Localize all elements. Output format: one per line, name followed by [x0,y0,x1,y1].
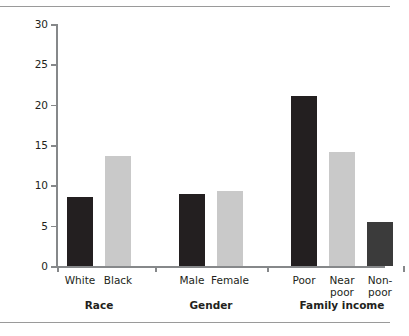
y-tick-mark [51,145,57,147]
x-tick-mark [155,266,157,272]
group-label: Gender [141,299,281,311]
y-tick-label: 30 [35,18,48,30]
bar [179,194,205,266]
bar [105,156,131,266]
y-tick-mark [51,24,57,26]
category-label: Non- poor [350,274,409,298]
y-tick-mark [51,105,57,107]
bar [67,197,93,266]
group-label: Family income [272,299,409,311]
bar [217,191,243,266]
x-tick-mark [57,266,59,272]
category-label: Female [200,274,260,286]
plot-area: 051015202530 [57,24,385,266]
y-tick-mark [51,64,57,66]
bar [329,152,355,266]
y-tick-label: 5 [41,220,48,232]
y-tick-mark [51,185,57,187]
x-tick-mark [403,266,405,272]
y-tick-label: 15 [35,139,48,151]
category-label: Black [88,274,148,286]
x-axis-line [56,266,385,268]
bar [367,222,393,266]
y-tick-label: 0 [41,260,48,272]
bar [291,96,317,266]
y-tick-label: 10 [35,179,48,191]
y-tick-label: 20 [35,99,48,111]
x-tick-mark [267,266,269,272]
y-tick-mark [51,226,57,228]
y-tick-label: 25 [35,58,48,70]
